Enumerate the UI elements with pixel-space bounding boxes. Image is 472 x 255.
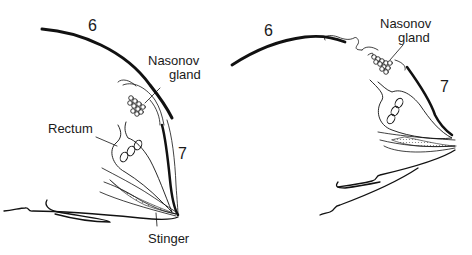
right-tergite-6 xyxy=(232,36,345,65)
right-segment-6-label: 6 xyxy=(264,24,273,38)
left-segment-7-label: 7 xyxy=(178,147,187,161)
right-stinger xyxy=(338,150,455,187)
left-nasonov-gland xyxy=(128,96,146,117)
right-nasonov-gland xyxy=(372,55,393,75)
right-abdomen-diagram xyxy=(232,36,456,215)
left-stinger-label: Stinger xyxy=(148,232,189,246)
right-nasonov-label-line2: gland xyxy=(398,31,430,45)
left-rectum xyxy=(112,122,172,212)
left-rectum-label: Rectum xyxy=(48,122,93,136)
left-segment-6-label: 6 xyxy=(88,19,97,33)
left-tergite-6 xyxy=(42,29,172,118)
left-nasonov-label-line2: gland xyxy=(169,68,201,82)
right-nasonov-label-line1: Nasonov xyxy=(380,17,431,31)
left-nasonov-label-line1: Nasonov xyxy=(148,54,199,68)
left-tergite-7 xyxy=(162,125,178,215)
right-segment-7-label: 7 xyxy=(440,80,449,94)
